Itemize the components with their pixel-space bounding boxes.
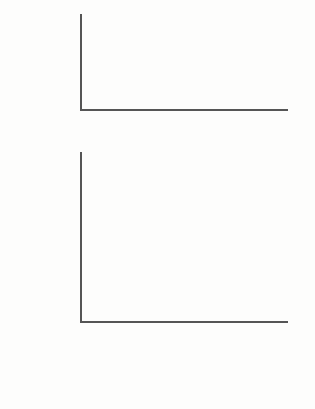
chart-should-open-anwr (0, 14, 315, 136)
x-axis-line (80, 321, 288, 323)
plot-area-top (80, 14, 288, 108)
x-axis-line (80, 109, 288, 111)
plot-area-bottom (80, 152, 288, 320)
chart-anwr-by-region (0, 152, 315, 348)
